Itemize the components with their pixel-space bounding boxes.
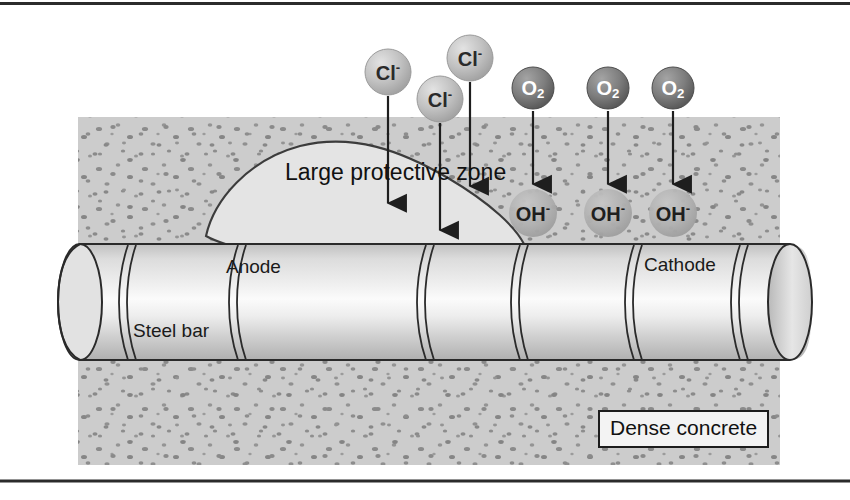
chloride-spheres [365,35,493,122]
hydroxide-spheres [509,189,697,237]
protective-zone-label: Large protective zone [285,160,405,185]
dense-concrete-label: Dense concrete [610,416,757,439]
cathode-label: Cathode [644,254,716,276]
dense-concrete-callout: Dense concrete [598,410,769,448]
steel-bar-label: Steel bar [133,320,209,342]
anode-label: Anode [226,256,281,278]
figure-canvas: Large protective zone Anode Cathode Stee… [0,0,850,500]
oxygen-spheres [512,67,694,109]
